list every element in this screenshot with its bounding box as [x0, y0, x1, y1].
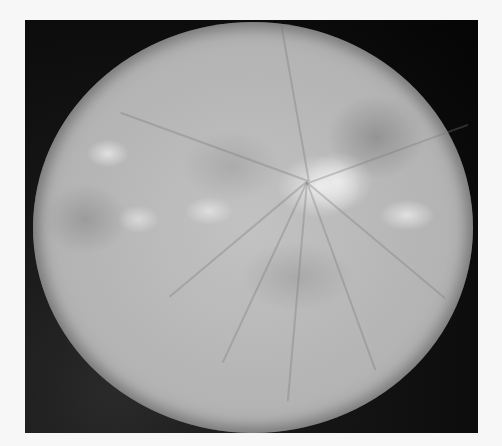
blood-vessel — [280, 24, 310, 182]
fundus-photo — [33, 22, 473, 433]
blood-vessel — [222, 181, 308, 363]
blood-vessel — [120, 112, 309, 182]
image-frame — [25, 20, 478, 433]
blood-vessel — [169, 180, 308, 297]
